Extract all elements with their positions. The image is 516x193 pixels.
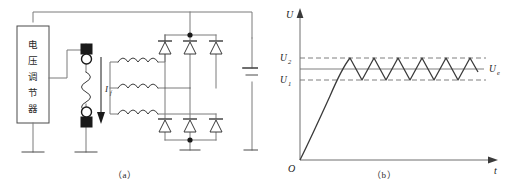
junction-dot-negative [187, 137, 192, 142]
diode-lower-3 [209, 119, 223, 132]
regulator-char-1: 压 [28, 55, 38, 66]
regulator-char-3: 节 [28, 87, 38, 98]
level-label-u1-symbol: U [280, 75, 288, 85]
brush-block-lower [81, 107, 92, 127]
caption-panel-b: （b） [372, 168, 396, 181]
winding-phase-1 [118, 58, 158, 62]
regulator-char-0: 电 [28, 39, 38, 50]
diode-upper-3 [209, 41, 223, 54]
level-label-u2-subscript: 2 [288, 58, 292, 65]
diode-upper-1 [158, 41, 172, 54]
level-label-u1-subscript: 1 [288, 80, 291, 87]
regulator-char-2: 调 [28, 71, 38, 82]
regulator-to-field-wire [49, 50, 86, 78]
field-current-subscript: f [110, 90, 113, 96]
waveform-chart-panel: U t O U 2 U 1 U e [258, 0, 516, 193]
diode-lower-1 [158, 119, 172, 132]
circuit-schematic-svg: 电 压 调 节 器 I f [0, 0, 258, 193]
y-axis-arrowhead [297, 8, 304, 18]
diode-upper-2 [183, 41, 197, 54]
level-label-ue-symbol: U [489, 64, 497, 74]
origin-label: O [288, 163, 295, 174]
level-label-u1: U 1 [280, 75, 291, 87]
level-label-u2-symbol: U [280, 53, 288, 63]
x-axis-label: t [494, 165, 497, 176]
voltage-curve [300, 58, 478, 160]
field-current-symbol: I [104, 84, 109, 94]
waveform-chart-svg: U t O U 2 U 1 U e [258, 0, 516, 193]
regulator-char-4: 器 [28, 103, 38, 114]
winding-phase-2 [118, 84, 158, 88]
circuit-diagram-panel: 电 压 调 节 器 I f [0, 0, 258, 193]
diode-group-upper [158, 41, 223, 54]
level-label-u2: U 2 [280, 53, 292, 65]
caption-panel-a: （a） [113, 168, 137, 181]
junction-dot-positive [187, 32, 192, 37]
level-label-ue-subscript: e [497, 69, 500, 76]
field-current-label: I f [104, 84, 113, 96]
level-label-ue: U e [489, 64, 500, 76]
y-axis-label: U [286, 9, 294, 20]
x-axis-arrowhead [488, 157, 498, 164]
brush-block-upper [81, 44, 92, 64]
diode-lower-2 [183, 119, 197, 132]
field-current-arrow [97, 57, 105, 124]
figure-root: 电 压 调 节 器 I f [0, 0, 516, 193]
winding-phase-3 [118, 110, 158, 114]
diode-group-lower [158, 119, 223, 132]
top-bus-wire [33, 12, 252, 38]
